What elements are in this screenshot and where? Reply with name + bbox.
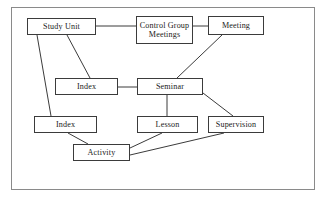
node-label: Control Group Meetings (140, 21, 190, 39)
node-label: Meeting (222, 21, 250, 30)
node-activity[interactable]: Activity (73, 144, 130, 161)
node-label: Index (56, 120, 75, 129)
node-label: Activity (88, 148, 116, 157)
node-lesson[interactable]: Lesson (137, 116, 198, 133)
node-meeting[interactable]: Meeting (208, 16, 264, 35)
node-label: Lesson (156, 120, 180, 129)
node-label: Supervision (216, 120, 256, 129)
node-label: Seminar (156, 82, 184, 91)
node-control-group[interactable]: Control Group Meetings (136, 16, 193, 44)
node-index-lower[interactable]: Index (34, 116, 97, 133)
node-label: Study Unit (43, 22, 80, 31)
figure-root: Study UnitControl Group MeetingsMeetingI… (0, 0, 327, 204)
node-seminar[interactable]: Seminar (137, 78, 203, 95)
node-supervision[interactable]: Supervision (208, 116, 264, 133)
node-index-middle[interactable]: Index (55, 78, 118, 95)
node-label: Index (77, 82, 96, 91)
node-study-unit[interactable]: Study Unit (27, 18, 96, 35)
